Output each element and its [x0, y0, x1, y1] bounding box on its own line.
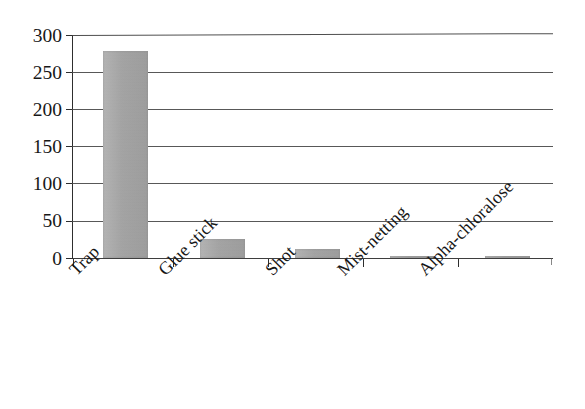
y-tick-label-250: 250: [0, 63, 62, 83]
y-tick-label-50: 50: [0, 211, 62, 231]
bar-shot: [295, 249, 340, 258]
x-axis-end-mark: [551, 258, 552, 265]
gridline-300: [72, 33, 553, 36]
bar-glue-stick: [200, 239, 245, 258]
bar-alpha-chloralose: [485, 256, 530, 258]
bar-trap: [103, 51, 148, 258]
y-tick-label-200: 200: [0, 100, 62, 120]
y-tick-label-100: 100: [0, 174, 62, 194]
gridline-baseline-0: [72, 258, 553, 259]
y-tick-label-0: 0: [0, 249, 62, 269]
bar-chart-figure: 300 250 200 150 100 50 0 Trap Glue stick…: [0, 0, 585, 409]
y-tick-label-150: 150: [0, 137, 62, 157]
y-tick-label-300: 300: [0, 26, 62, 46]
x-axis-tick-4: [458, 259, 459, 267]
